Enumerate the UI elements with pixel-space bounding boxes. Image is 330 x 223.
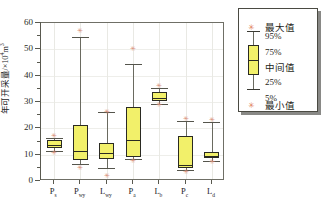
- max-marker: ✳: [77, 27, 83, 34]
- median-line: [99, 153, 114, 154]
- gridline-horizontal: [41, 76, 223, 77]
- box-iqr: [178, 136, 193, 167]
- x-tick-label-p-wy: Pwy: [74, 186, 85, 200]
- x-tick: [106, 180, 107, 184]
- legend-panel: 最大值✳95%75%中间值25%5%最小值✳: [238, 8, 318, 112]
- y-tick-major: [35, 154, 40, 155]
- min-marker: ✳: [209, 159, 215, 166]
- x-tick: [158, 180, 159, 184]
- legend-label-q1: 25%: [265, 77, 282, 87]
- legend-median-line: [248, 60, 259, 61]
- x-tick: [79, 180, 80, 184]
- y-axis-title-unit: m: [0, 46, 10, 52]
- p5-cap: [98, 168, 115, 169]
- legend-star-min: ✳: [248, 102, 255, 110]
- min-marker: ✳: [51, 149, 57, 156]
- y-axis-title: 年可开采量/×104m3: [0, 0, 12, 158]
- max-marker: ✳: [183, 115, 189, 122]
- y-tick-label: 20: [24, 123, 33, 132]
- y-axis-title-text: 年可开采量/×10: [0, 56, 10, 115]
- y-tick-major: [35, 127, 40, 128]
- x-tick: [185, 180, 186, 184]
- x-tick: [53, 180, 54, 184]
- max-marker: ✳: [209, 117, 215, 124]
- x-tick-label-l-wy: Lwy: [100, 186, 112, 200]
- median-line: [126, 140, 141, 141]
- y-tick-minor: [37, 88, 40, 89]
- max-marker: ✳: [51, 133, 57, 140]
- x-tick-label-l-b: Lb: [154, 186, 162, 200]
- y-axis-title-exponent: 4: [0, 53, 5, 56]
- plot-area: ✳✳✳✳✳✳✳✳✳✳✳✳✳✳: [40, 22, 224, 180]
- p95-cap: [125, 64, 142, 65]
- x-label-subscript: wy: [105, 192, 111, 198]
- x-label-subscript: a: [133, 192, 135, 198]
- legend-lower-whisker: [253, 75, 254, 89]
- y-tick-major: [35, 75, 40, 76]
- min-marker: ✳: [77, 164, 83, 171]
- boxplot-figure: 年可开采量/×104m3 ✳✳✳✳✳✳✳✳✳✳✳✳✳✳ 010203040506…: [0, 0, 330, 223]
- y-axis: [40, 22, 41, 180]
- x-tick-label-p-c: Pc: [181, 186, 188, 200]
- legend-label-q3: 75%: [265, 47, 282, 57]
- box-iqr: [99, 143, 114, 159]
- legend-upper-whisker: [253, 31, 254, 45]
- y-tick-major: [35, 22, 40, 23]
- x-label-subscript: b: [160, 192, 163, 198]
- y-tick-minor: [37, 114, 40, 115]
- median-line: [152, 98, 167, 99]
- x-tick: [132, 180, 133, 184]
- y-tick-label: 0: [29, 176, 34, 185]
- max-marker: ✳: [104, 109, 110, 116]
- legend-p5-cap: [247, 89, 260, 90]
- y-tick-major: [35, 48, 40, 49]
- y-tick-label: 50: [24, 44, 33, 53]
- median-line: [73, 151, 88, 152]
- y-tick-major: [35, 180, 40, 181]
- box-iqr: [73, 125, 88, 160]
- min-marker: ✳: [183, 168, 189, 175]
- y-tick-minor: [37, 35, 40, 36]
- gridline-horizontal: [41, 102, 223, 103]
- whisker-line: [107, 112, 108, 168]
- min-marker: ✳: [156, 102, 162, 109]
- y-tick-label: 10: [24, 150, 33, 159]
- y-tick-minor: [37, 167, 40, 168]
- legend-label-p95: 95%: [265, 31, 282, 41]
- x-tick: [211, 180, 212, 184]
- min-marker: ✳: [104, 172, 110, 179]
- y-tick-major: [35, 101, 40, 102]
- box-iqr: [126, 107, 141, 157]
- min-marker: ✳: [130, 157, 136, 164]
- x-label-subscript: s: [55, 192, 57, 198]
- legend-label-median: 中间值: [265, 63, 295, 73]
- x-label-subscript: d: [212, 192, 215, 198]
- y-tick-label: 40: [24, 71, 33, 80]
- y-tick-label: 30: [24, 97, 33, 106]
- legend-label-min: 最小值: [265, 101, 295, 111]
- p95-cap: [72, 37, 89, 38]
- median-line: [47, 145, 62, 146]
- x-tick-label-l-d: Ld: [207, 186, 215, 200]
- y-axis-title-unit-exponent: 3: [0, 44, 5, 47]
- x-label-subscript: c: [186, 192, 188, 198]
- max-marker: ✳: [156, 83, 162, 90]
- x-label-subscript: wy: [79, 192, 85, 198]
- y-tick-minor: [37, 141, 40, 142]
- y-tick-minor: [37, 62, 40, 63]
- x-tick-label-p-s: Ps: [50, 186, 57, 200]
- y-tick-label: 60: [24, 18, 33, 27]
- x-tick-label-p-a: Pa: [129, 186, 136, 200]
- legend-star-max: ✳: [248, 24, 255, 32]
- max-marker: ✳: [130, 45, 136, 52]
